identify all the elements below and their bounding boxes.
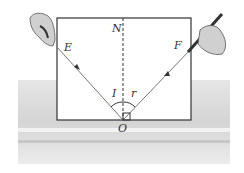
label-e: E [64,42,72,53]
left-hand-icon [30,13,55,46]
reflection-diagram [0,0,244,173]
label-r: r [131,88,136,99]
label-o: O [118,123,127,134]
label-f: F [174,40,182,51]
right-hand-pen-icon [188,14,226,55]
label-n: N [112,23,122,34]
label-i: I [112,88,116,99]
